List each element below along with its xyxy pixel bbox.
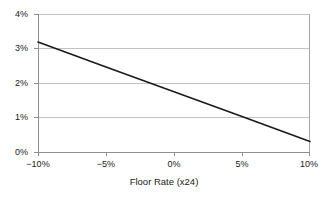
xtick-label-5-percent: 5% [219, 160, 265, 169]
x-axis-tick-labels: −10% −5% 0% 5% 10% [0, 0, 328, 199]
xtick-label-neg10-percent: −10% [15, 160, 61, 169]
xtick-label-10-percent: 10% [286, 160, 328, 169]
xtick-label-neg5-percent: −5% [83, 160, 129, 169]
x-axis-title: Floor Rate (x24) [0, 176, 328, 187]
xtick-label-0-percent: 0% [151, 160, 197, 169]
chart-container: 4% 3% 2% 1% 0% −10% −5% 0% 5% 10% Floor … [0, 0, 328, 199]
